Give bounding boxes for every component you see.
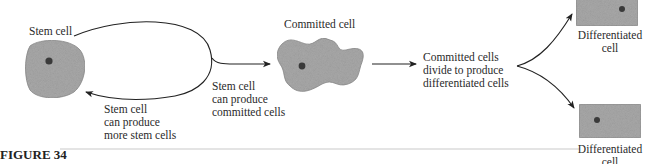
- figure-caption: FIGURE 34: [0, 147, 67, 163]
- commitment-label-line1: Stem cell: [212, 80, 285, 93]
- fork-arrow-top: [517, 14, 572, 66]
- commitment-arrow: [212, 58, 270, 64]
- differentiated-top-label-line1: Differentiated: [575, 29, 645, 42]
- differentiated-cell-bottom-label: Differentiated cell: [575, 143, 645, 164]
- self-renewal-label-line2: can produce: [104, 116, 176, 129]
- committed-cell-label: Committed cell: [284, 18, 355, 31]
- differentiated-cell-bottom-icon: [579, 104, 641, 138]
- differentiated-top-label-line2: cell: [575, 42, 645, 55]
- fork-arrow-bottom: [517, 66, 574, 108]
- self-renewal-label-line3: more stem cells: [104, 129, 176, 142]
- differentiated-bottom-label-line1: Differentiated: [575, 143, 645, 156]
- differentiation-label-line3: differentiated cells: [423, 77, 509, 90]
- commitment-label: Stem cell can produce committed cells: [212, 80, 285, 119]
- self-renewal-label: Stem cell can produce more stem cells: [104, 103, 176, 142]
- differentiated-cell-top-label: Differentiated cell: [575, 29, 645, 55]
- stem-cell-icon: [26, 40, 85, 97]
- stem-cell-label: Stem cell: [29, 25, 72, 38]
- differentiation-label: Committed cells divide to produce differ…: [423, 51, 509, 90]
- commitment-label-line2: can produce: [212, 93, 285, 106]
- committed-cell-icon: [277, 38, 363, 91]
- differentiated-cell-top-icon: [576, 0, 638, 26]
- self-renewal-label-line1: Stem cell: [104, 103, 176, 116]
- differentiated-bottom-label-line2: cell: [575, 156, 645, 164]
- differentiation-label-line2: divide to produce: [423, 64, 509, 77]
- commitment-label-line3: committed cells: [212, 106, 285, 119]
- self-renewal-loop-arrow: [74, 22, 212, 100]
- differentiation-label-line1: Committed cells: [423, 51, 509, 64]
